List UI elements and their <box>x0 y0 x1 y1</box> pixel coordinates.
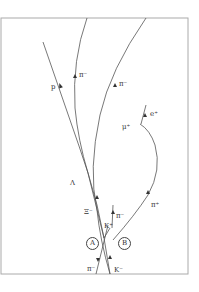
label-e-plus: e⁺ <box>150 111 158 118</box>
proton-track <box>43 42 79 146</box>
label-pi-minus-2: π⁻ <box>119 81 127 88</box>
label-pi-minus-1: π⁻ <box>79 72 87 79</box>
arrow-icon <box>113 83 117 87</box>
label-mu-plus: μ⁺ <box>122 124 130 131</box>
label-pi-plus: π⁺ <box>151 202 159 209</box>
vertex-b-label: B <box>118 237 131 250</box>
arrow-icon <box>95 195 99 199</box>
pi-minus-track-2 <box>93 18 146 274</box>
arrow-icon <box>108 255 112 259</box>
label-k-minus-beam: K⁻ <box>114 267 123 274</box>
arrow-icon <box>73 74 77 78</box>
label-pi-minus-beam: π⁻ <box>87 266 95 273</box>
lambda-xi-track <box>79 146 104 238</box>
label-xi-minus: Ξ⁻ <box>84 209 93 216</box>
track-diagram-svg <box>0 0 199 292</box>
pi-plus-track <box>113 124 157 240</box>
label-k-plus: K⁺ <box>104 223 113 230</box>
label-proton: p <box>51 84 55 91</box>
arrow-icon <box>111 210 115 214</box>
label-pi-minus-3: π⁻ <box>116 213 124 220</box>
label-lambda: Λ <box>70 180 75 187</box>
vertex-a-label: A <box>86 237 99 250</box>
pi-minus-track-1 <box>75 18 89 173</box>
